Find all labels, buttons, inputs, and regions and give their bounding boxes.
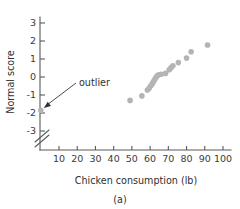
axes-group xyxy=(35,17,231,150)
x-axis-title: Chicken consumption (lb) xyxy=(75,175,197,186)
scatter-plot: 3210-1-2-3102030405060708090100 outlier … xyxy=(0,0,240,209)
data-point xyxy=(176,60,182,66)
y-tick-label-4: -1 xyxy=(27,89,36,100)
x-tick-label-1: 20 xyxy=(71,153,83,164)
data-point xyxy=(188,49,194,55)
tick-labels-group: 3210-1-2-3102030405060708090100 xyxy=(27,17,233,163)
x-tick-label-0: 10 xyxy=(53,153,65,164)
figure-caption: (a) xyxy=(113,194,126,205)
x-tick-label-4: 50 xyxy=(126,153,138,164)
x-tick-label-6: 70 xyxy=(162,153,174,164)
y-tick-label-2: 1 xyxy=(30,53,36,64)
data-point xyxy=(184,55,190,61)
x-tick-label-7: 80 xyxy=(181,153,193,164)
axis-break-mark-2 xyxy=(35,135,49,147)
x-tick-label-3: 40 xyxy=(108,153,120,164)
axis-break-mark-1 xyxy=(35,130,49,142)
outlier-arrow-line xyxy=(47,83,76,105)
y-tick-label-5: -2 xyxy=(27,107,36,118)
y-axis-title: Normal score xyxy=(5,50,16,114)
data-point xyxy=(170,63,176,69)
x-tick-label-2: 30 xyxy=(89,153,101,164)
x-tick-label-5: 60 xyxy=(144,153,156,164)
outlier-label: outlier xyxy=(79,77,110,88)
x-tick-label-9: 100 xyxy=(214,153,232,164)
data-point-outlier xyxy=(38,108,44,114)
y-tick-label-3: 0 xyxy=(30,71,36,82)
data-point xyxy=(139,93,145,99)
outlier-annotation-group: outlier xyxy=(42,77,110,110)
x-tick-label-8: 90 xyxy=(199,153,211,164)
y-tick-label-1: 2 xyxy=(30,35,36,46)
ticks-group xyxy=(40,23,223,150)
data-point xyxy=(205,42,211,48)
data-point xyxy=(127,98,133,104)
data-points-group xyxy=(38,42,210,113)
y-tick-label-6: -3 xyxy=(27,125,36,136)
figure-container: 3210-1-2-3102030405060708090100 outlier … xyxy=(0,0,240,209)
y-tick-label-0: 3 xyxy=(30,17,36,28)
